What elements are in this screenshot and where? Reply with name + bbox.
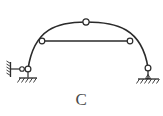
right-support-hinge [145, 65, 151, 71]
arch-rib-group [28, 22, 148, 69]
left-ground-hatching [18, 78, 37, 83]
right-ground-hatching [137, 79, 160, 84]
figure-container: C [0, 0, 163, 116]
tie-left-hinge [39, 38, 45, 44]
right-support-group [137, 71, 160, 84]
tie-right-hinge [127, 38, 133, 44]
figure-caption: C [0, 90, 163, 110]
crown-hinge [83, 19, 89, 25]
left-support-hinge [25, 66, 31, 72]
left-support-group [7, 61, 38, 83]
hinge-group [25, 19, 151, 72]
arch-rib-left-half [28, 22, 86, 69]
arch-rib-right-half [86, 22, 148, 68]
left-wall-link-hinge [20, 67, 25, 72]
